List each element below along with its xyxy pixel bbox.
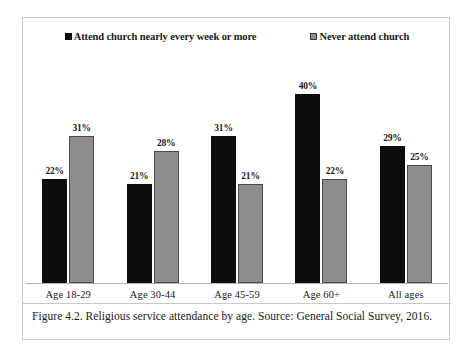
bar-wrap: 31% xyxy=(69,56,94,283)
bar[interactable] xyxy=(69,136,94,283)
category-label: Age 60+ xyxy=(279,289,363,300)
bar-wrap: 22% xyxy=(322,56,347,283)
category-label: Age 18-29 xyxy=(26,289,110,300)
bar-group: 29%25% xyxy=(364,56,448,283)
bar-wrap: 28% xyxy=(154,56,179,283)
legend-label-never: Never attend church xyxy=(319,31,409,42)
figure-caption: Figure 4.2. Religious service attendance… xyxy=(32,309,441,324)
legend-item-attend: Attend church nearly every week or more xyxy=(65,31,257,42)
bar-wrap: 29% xyxy=(380,56,405,283)
bar-group: 21%28% xyxy=(110,56,194,283)
bar[interactable] xyxy=(295,94,320,283)
legend-item-never: Never attend church xyxy=(310,31,409,42)
bar-wrap: 31% xyxy=(211,56,236,283)
chart-area: Attend church nearly every week or more … xyxy=(23,18,451,303)
bar-group: 31%21% xyxy=(195,56,279,283)
bar-value-label: 22% xyxy=(46,166,64,177)
bar[interactable] xyxy=(42,179,67,283)
category-label: All ages xyxy=(364,289,448,300)
bar-wrap: 21% xyxy=(127,56,152,283)
bar-value-label: 21% xyxy=(130,171,148,182)
category-label: Age 45-59 xyxy=(195,289,279,300)
bar-value-label: 40% xyxy=(299,81,317,92)
legend-swatch-icon-attend xyxy=(65,33,72,40)
bar-value-label: 31% xyxy=(73,123,91,134)
bar-wrap: 22% xyxy=(42,56,67,283)
bar-wrap: 25% xyxy=(407,56,432,283)
category-axis: Age 18-29Age 30-44Age 45-59Age 60+All ag… xyxy=(26,285,448,303)
legend-swatch-icon-never xyxy=(310,33,317,40)
bar[interactable] xyxy=(154,151,179,283)
figure-caption-box: Figure 4.2. Religious service attendance… xyxy=(23,303,451,340)
bar-groups: 22%31%21%28%31%21%40%22%29%25% xyxy=(26,56,448,283)
bar[interactable] xyxy=(238,184,263,283)
bar-value-label: 25% xyxy=(410,152,428,163)
legend-label-attend: Attend church nearly every week or more xyxy=(74,31,257,42)
bar[interactable] xyxy=(407,165,432,283)
bar[interactable] xyxy=(380,146,405,283)
bar[interactable] xyxy=(322,179,347,283)
bar[interactable] xyxy=(211,136,236,283)
bar-value-label: 22% xyxy=(326,166,344,177)
bar-group: 40%22% xyxy=(279,56,363,283)
x-axis-line xyxy=(26,283,448,284)
category-label: Age 30-44 xyxy=(110,289,194,300)
bar[interactable] xyxy=(127,184,152,283)
bar-wrap: 40% xyxy=(295,56,320,283)
bar-value-label: 29% xyxy=(383,133,401,144)
figure-container: Attend church nearly every week or more … xyxy=(22,17,450,340)
chart-legend: Attend church nearly every week or more … xyxy=(23,27,451,45)
bar-value-label: 21% xyxy=(241,171,259,182)
bar-value-label: 28% xyxy=(157,138,175,149)
bar-group: 22%31% xyxy=(26,56,110,283)
bar-value-label: 31% xyxy=(214,123,232,134)
plot-area: 22%31%21%28%31%21%40%22%29%25% xyxy=(23,56,451,284)
bar-wrap: 21% xyxy=(238,56,263,283)
